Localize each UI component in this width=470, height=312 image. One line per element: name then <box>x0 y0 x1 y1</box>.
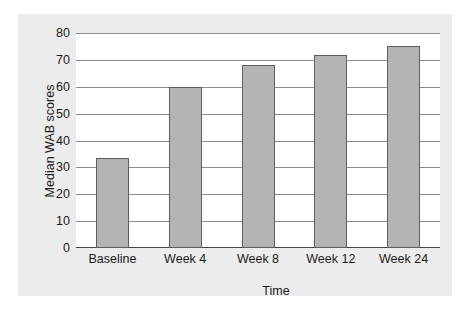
gridline-80 <box>76 33 440 34</box>
bar <box>96 158 129 248</box>
x-tick-label: Week 24 <box>354 252 454 266</box>
bar <box>314 55 347 249</box>
bar <box>169 87 202 248</box>
y-tick-label: 80 <box>18 27 70 39</box>
bar <box>242 65 275 248</box>
y-tick-label: 20 <box>18 188 70 200</box>
y-axis-tick-labels: 01020304050607080 <box>18 33 70 248</box>
y-tick-label: 30 <box>18 161 70 173</box>
y-tick-label: 60 <box>18 81 70 93</box>
y-tick-label: 40 <box>18 135 70 147</box>
chart-figure: Median WAB scores Time 01020304050607080… <box>0 0 470 312</box>
x-axis-title: Time <box>94 284 458 298</box>
gridline-70 <box>76 60 440 61</box>
y-tick-label: 70 <box>18 54 70 66</box>
bar <box>387 46 420 248</box>
plot-area <box>76 33 440 248</box>
y-tick-label: 10 <box>18 215 70 227</box>
y-tick-label: 50 <box>18 108 70 120</box>
